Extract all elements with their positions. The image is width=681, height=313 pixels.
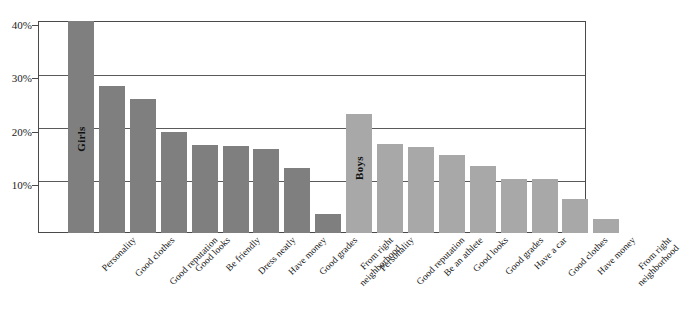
x-axis-label-0: Personality [100, 235, 138, 273]
y-axis: 10% 20% 30% 40% [0, 0, 38, 233]
bar-girls-2 [130, 99, 156, 233]
bar-boys-9: Boys [346, 114, 372, 233]
bar-girls-0: Girls [68, 21, 94, 233]
bars-layer: GirlsBoys [38, 21, 586, 233]
bar-boys-17 [593, 219, 619, 233]
series-label-girls: Girls [75, 126, 87, 151]
x-axis-label-line1: Personality [100, 235, 138, 273]
bar-boys-11 [408, 147, 434, 233]
bar-girls-5 [223, 146, 249, 233]
bar-boys-10 [377, 144, 403, 233]
y-tick-label-20: 20% [12, 126, 32, 138]
bar-girls-6 [253, 149, 279, 233]
bar-girls-8 [315, 214, 341, 233]
bar-girls-4 [192, 145, 218, 234]
bar-boys-14 [501, 179, 527, 233]
bar-girls-7 [284, 168, 310, 233]
series-label-boys: Boys [353, 156, 365, 180]
bar-boys-15 [532, 179, 558, 233]
x-axis-label-line1: Good clothes [133, 235, 177, 279]
y-tick-label-30: 30% [12, 72, 32, 84]
x-axis-labels: PersonalityGood clothesGood reputationGo… [38, 235, 586, 313]
x-axis-label-1: Good clothes [133, 235, 177, 279]
y-tick-label-40: 40% [12, 19, 32, 31]
bar-boys-13 [470, 166, 496, 233]
y-tick-label-10: 10% [12, 179, 32, 191]
bar-boys-12 [439, 155, 465, 233]
bar-girls-1 [99, 86, 125, 233]
bar-girls-3 [161, 132, 187, 233]
bar-boys-16 [562, 199, 588, 233]
